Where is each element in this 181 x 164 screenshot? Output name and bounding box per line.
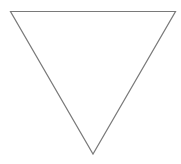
diagram-canvas	[0, 0, 181, 164]
triangle-svg	[0, 0, 181, 164]
inverted-triangle-shape	[11, 12, 176, 155]
